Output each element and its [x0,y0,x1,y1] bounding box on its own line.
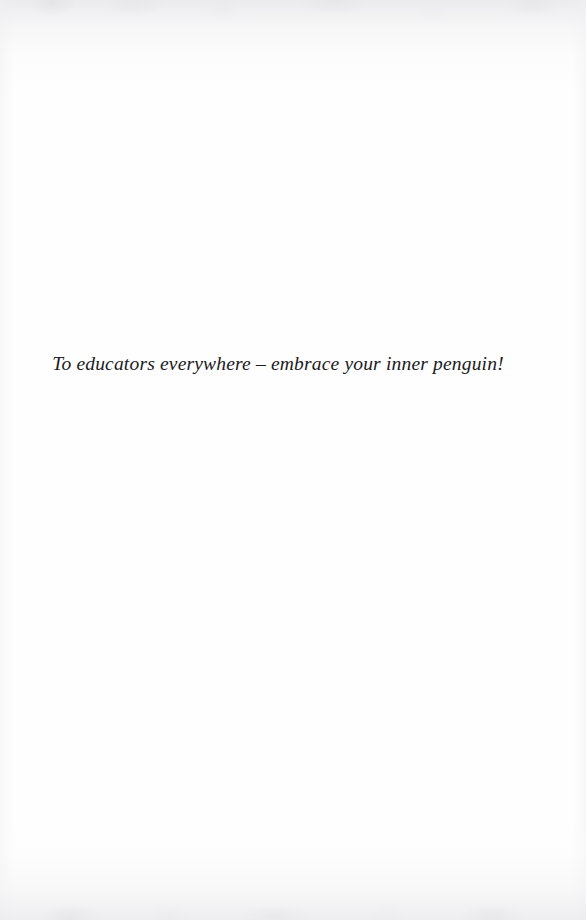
book-dedication-page: To educators everywhere – embrace your i… [0,0,586,920]
scan-texture-bottom-edge [0,810,586,920]
scan-texture-top-edge [0,0,586,96]
scan-texture-left-edge [0,0,14,920]
dedication-text: To educators everywhere – embrace your i… [52,352,504,376]
scan-texture-right-edge [572,0,586,920]
dedication-block: To educators everywhere – embrace your i… [0,352,586,376]
